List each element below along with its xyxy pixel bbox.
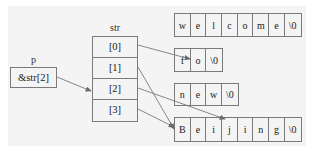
char-cell: j bbox=[222, 118, 238, 141]
char-cell: e bbox=[191, 84, 207, 105]
char-cell: w bbox=[206, 84, 222, 105]
array-label: str bbox=[92, 22, 138, 33]
array-str: [0] [1] [2] [3] bbox=[92, 36, 138, 122]
char-cell: \0 bbox=[206, 49, 222, 71]
char-cell: c bbox=[222, 14, 238, 36]
string-new: n e w \0 bbox=[174, 83, 239, 106]
char-cell: l bbox=[206, 14, 222, 36]
char-cell: B bbox=[175, 118, 191, 141]
char-cell: f bbox=[175, 49, 191, 71]
array-cell-3: [3] bbox=[93, 100, 137, 121]
char-cell: e bbox=[191, 118, 207, 141]
string-beijing: B e i j i n g \0 bbox=[174, 117, 302, 142]
string-welcome: w e l c o m e \0 bbox=[174, 13, 302, 37]
char-cell: o bbox=[238, 14, 254, 36]
array-cell-0: [0] bbox=[93, 37, 137, 58]
array-cell-2: [2] bbox=[93, 79, 137, 100]
char-cell: o bbox=[191, 49, 207, 71]
char-cell: \0 bbox=[285, 14, 301, 36]
char-cell: \0 bbox=[222, 84, 238, 105]
pointer-label: p bbox=[10, 54, 57, 65]
string-fo: f o \0 bbox=[174, 48, 223, 72]
pointer-box: &str[2] bbox=[10, 67, 57, 88]
char-cell: n bbox=[253, 118, 269, 141]
char-cell: i bbox=[206, 118, 222, 141]
char-cell: i bbox=[238, 118, 254, 141]
char-cell: \0 bbox=[285, 118, 301, 141]
char-cell: g bbox=[269, 118, 285, 141]
char-cell: e bbox=[191, 14, 207, 36]
char-cell: n bbox=[175, 84, 191, 105]
array-cell-1: [1] bbox=[93, 58, 137, 79]
char-cell: w bbox=[175, 14, 191, 36]
char-cell: e bbox=[269, 14, 285, 36]
char-cell: m bbox=[253, 14, 269, 36]
